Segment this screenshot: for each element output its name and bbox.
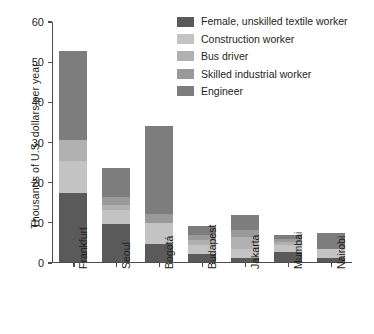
legend-item[interactable]: Skilled industrial worker	[177, 65, 347, 82]
x-tick-label: Mumbai	[292, 232, 304, 269]
bar-segment	[231, 215, 259, 229]
y-tick	[48, 222, 52, 223]
y-axis-line	[52, 22, 53, 263]
legend-swatch-icon	[177, 17, 194, 27]
bar-segment	[102, 197, 130, 205]
x-tick-label: Bogotá	[163, 236, 175, 269]
x-tick	[159, 263, 160, 267]
y-tick-label: 50	[4, 56, 44, 68]
bar-segment	[59, 161, 87, 193]
legend-item[interactable]: Female, unskilled textile worker	[177, 13, 347, 30]
y-tick-label: 60	[4, 16, 44, 28]
legend-item[interactable]: Engineer	[177, 83, 347, 100]
legend-swatch-icon	[177, 69, 194, 79]
bar-segment	[102, 168, 130, 197]
y-tick-label: 0	[4, 257, 44, 269]
bar-segment	[102, 210, 130, 224]
y-tick	[48, 21, 52, 22]
legend-item[interactable]: Bus driver	[177, 48, 347, 65]
legend-label: Skilled industrial worker	[201, 69, 311, 80]
y-tick	[48, 102, 52, 103]
x-tick	[73, 263, 74, 267]
x-tick-label: Nairobi	[335, 236, 347, 269]
y-tick-label: 30	[4, 137, 44, 149]
bar-segment	[59, 51, 87, 140]
legend-label: Engineer	[201, 86, 243, 97]
x-tick-label: Seoul	[120, 242, 132, 269]
stacked-bar-chart: Thousands of U.S. dollars per year 01020…	[0, 0, 374, 334]
legend-label: Construction worker	[201, 34, 294, 45]
bar-segment	[59, 140, 87, 160]
legend-item[interactable]: Construction worker	[177, 30, 347, 47]
y-tick-label: 20	[4, 177, 44, 189]
bar-segment	[145, 126, 173, 214]
legend-label: Bus driver	[201, 51, 248, 62]
legend-swatch-icon	[177, 86, 194, 96]
legend-label: Female, unskilled textile worker	[201, 16, 347, 27]
y-tick	[48, 182, 52, 183]
x-tick-label: Frankfurt	[77, 227, 89, 269]
y-tick	[48, 262, 52, 263]
legend-swatch-icon	[177, 34, 194, 44]
x-tick	[116, 263, 117, 267]
x-tick	[331, 263, 332, 267]
legend: Female, unskilled textile workerConstruc…	[177, 13, 347, 100]
x-tick-label: Budapest	[206, 225, 218, 269]
y-tick-label: 10	[4, 217, 44, 229]
y-tick	[48, 142, 52, 143]
bar-segment	[145, 214, 173, 224]
x-tick	[288, 263, 289, 267]
x-tick-label: Jakarta	[249, 235, 261, 269]
y-tick	[48, 62, 52, 63]
x-tick	[245, 263, 246, 267]
x-tick	[202, 263, 203, 267]
y-tick-label: 40	[4, 96, 44, 108]
legend-swatch-icon	[177, 51, 194, 61]
